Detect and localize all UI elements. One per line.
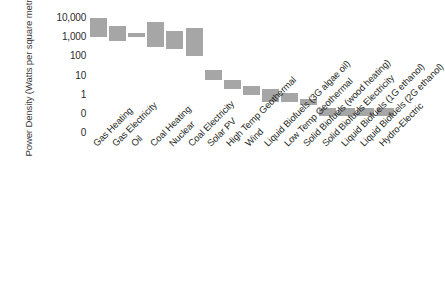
y-tick-label: 10 bbox=[36, 71, 86, 81]
x-tick-label: Oil bbox=[129, 134, 144, 149]
bar bbox=[147, 22, 164, 47]
bar bbox=[186, 28, 203, 56]
y-tick-label: 1,000 bbox=[36, 32, 86, 42]
bar bbox=[128, 33, 145, 37]
bar bbox=[243, 86, 260, 95]
y-tick-label: 1 bbox=[36, 90, 86, 100]
x-axis-tick-labels: Gas HeatingGas ElectricityOilCoal Heatin… bbox=[0, 134, 410, 300]
y-tick-label: 10,000 bbox=[36, 13, 86, 23]
bar bbox=[224, 80, 241, 89]
bar bbox=[109, 26, 126, 42]
bar bbox=[166, 31, 183, 49]
y-axis-tick-labels: 10,0001,00010010100 bbox=[36, 0, 86, 140]
y-tick-label: 0 bbox=[36, 109, 86, 119]
y-tick-label: 100 bbox=[36, 51, 86, 61]
bar bbox=[90, 18, 107, 37]
bar bbox=[205, 70, 222, 80]
